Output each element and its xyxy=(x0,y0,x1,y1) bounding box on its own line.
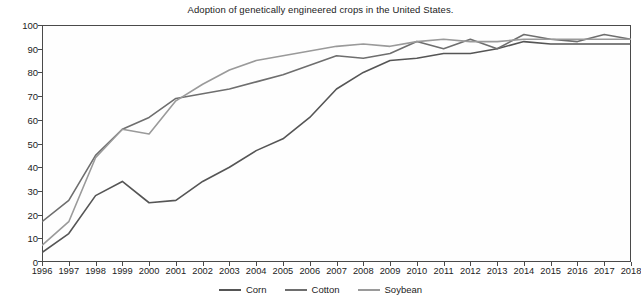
series-lines xyxy=(42,25,631,262)
legend-label: Cotton xyxy=(312,284,340,295)
x-tick-label: 2002 xyxy=(192,266,213,276)
y-tick-label: 70 xyxy=(4,91,38,102)
y-tick-label: 40 xyxy=(4,162,38,173)
x-tick-label: 2012 xyxy=(460,266,481,276)
x-tick-label: 1999 xyxy=(112,266,133,276)
series-line-cotton xyxy=(42,34,631,221)
x-tick-label: 2016 xyxy=(567,266,588,276)
x-tick-label: 2000 xyxy=(139,266,160,276)
x-tick-label: 2006 xyxy=(299,266,320,276)
x-tick-label: 1998 xyxy=(85,266,106,276)
legend-item-cotton[interactable]: Cotton xyxy=(285,284,340,295)
x-tick-label: 2004 xyxy=(246,266,267,276)
legend-item-corn[interactable]: Corn xyxy=(219,284,267,295)
x-tick-label: 1996 xyxy=(32,266,53,276)
y-tick-label: 20 xyxy=(4,209,38,220)
x-tick-label: 2014 xyxy=(514,266,535,276)
y-tick-label: 100 xyxy=(4,20,38,31)
y-axis: 0102030405060708090100 xyxy=(0,25,38,262)
y-tick-label: 10 xyxy=(4,233,38,244)
y-tick-label: 30 xyxy=(4,185,38,196)
legend-label: Soybean xyxy=(385,284,423,295)
series-line-soybean xyxy=(42,39,631,245)
x-tick-label: 2009 xyxy=(380,266,401,276)
x-tick-label: 2011 xyxy=(434,266,454,276)
y-tick-label: 60 xyxy=(4,114,38,125)
plot-area xyxy=(42,25,631,262)
chart-container: Adoption of genetically engineered crops… xyxy=(0,0,641,304)
x-tick-label: 2013 xyxy=(487,266,508,276)
y-tick-label: 50 xyxy=(4,138,38,149)
legend-swatch-icon xyxy=(285,289,307,291)
y-tick-label: 90 xyxy=(4,43,38,54)
y-tick-label: 80 xyxy=(4,67,38,78)
x-tick-label: 2008 xyxy=(353,266,374,276)
x-tick-label: 2005 xyxy=(273,266,294,276)
x-tick-label: 1997 xyxy=(58,266,79,276)
chart-legend: CornCottonSoybean xyxy=(0,284,641,295)
x-tick-label: 2001 xyxy=(166,266,187,276)
x-tick-label: 2010 xyxy=(406,266,427,276)
legend-item-soybean[interactable]: Soybean xyxy=(358,284,423,295)
x-tick-label: 2017 xyxy=(594,266,615,276)
x-tick-label: 2003 xyxy=(219,266,240,276)
x-tick-label: 2015 xyxy=(540,266,561,276)
series-line-corn xyxy=(42,42,631,253)
x-tick-label: 2018 xyxy=(621,266,641,276)
chart-title: Adoption of genetically engineered crops… xyxy=(0,4,641,15)
legend-swatch-icon xyxy=(358,289,380,291)
x-tick-label: 2007 xyxy=(326,266,347,276)
legend-label: Corn xyxy=(246,284,267,295)
legend-swatch-icon xyxy=(219,289,241,291)
x-axis: 1996199719981999200020012002200320042005… xyxy=(42,266,631,280)
